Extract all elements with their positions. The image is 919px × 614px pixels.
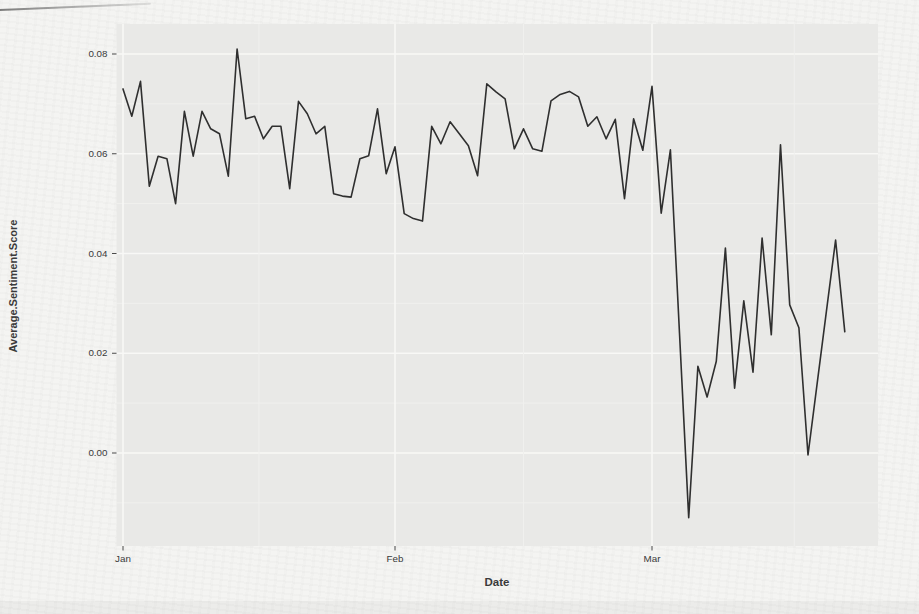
y-tick-label: 0.04 — [88, 248, 108, 259]
y-tick-label: 0.06 — [88, 148, 108, 159]
sentiment-line-chart: 0.000.020.040.060.08JanFebMar Date Avera… — [0, 0, 919, 614]
y-tick-label: 0.00 — [88, 447, 108, 458]
y-tick-label: 0.02 — [88, 347, 107, 358]
plot-panel — [117, 24, 879, 546]
x-axis-title: Date — [485, 576, 510, 588]
x-tick-label: Feb — [387, 553, 404, 564]
x-tick-label: Jan — [115, 553, 131, 564]
x-tick-label: Mar — [644, 553, 662, 564]
y-tick-label: 0.08 — [88, 48, 108, 59]
screenshot-page: 0.000.020.040.060.08JanFebMar Date Avera… — [0, 0, 919, 614]
page-bottom-shade — [0, 601, 919, 614]
panel-background — [117, 24, 879, 546]
y-axis-title: Average.Sentiment.Score — [7, 220, 19, 353]
